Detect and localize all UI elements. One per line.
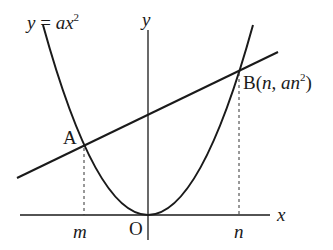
x-axis-label: x — [277, 205, 285, 224]
point-a-label: A — [63, 128, 77, 147]
parabola-diagram: y = ax2 y x O A B(n, an2) m n — [0, 0, 333, 250]
tick-m-label: m — [73, 222, 87, 241]
curve-equation-label: y = ax2 — [27, 12, 79, 32]
point-b-label: B(n, an2) — [243, 72, 312, 92]
tick-n-label: n — [234, 222, 244, 241]
y-axis-label: y — [142, 10, 150, 29]
origin-label: O — [129, 219, 143, 238]
